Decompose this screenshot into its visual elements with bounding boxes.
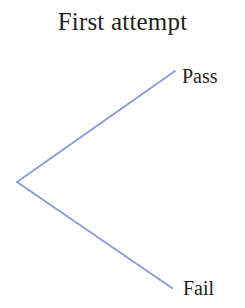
fail-branch-line: [17, 182, 172, 288]
pass-branch-line: [17, 71, 175, 182]
branch-lines-group: [0, 0, 245, 308]
tree-diagram-canvas: First attempt Pass Fail: [0, 0, 245, 308]
pass-branch-label: Pass: [182, 65, 218, 87]
fail-branch-label: Fail: [183, 277, 214, 299]
